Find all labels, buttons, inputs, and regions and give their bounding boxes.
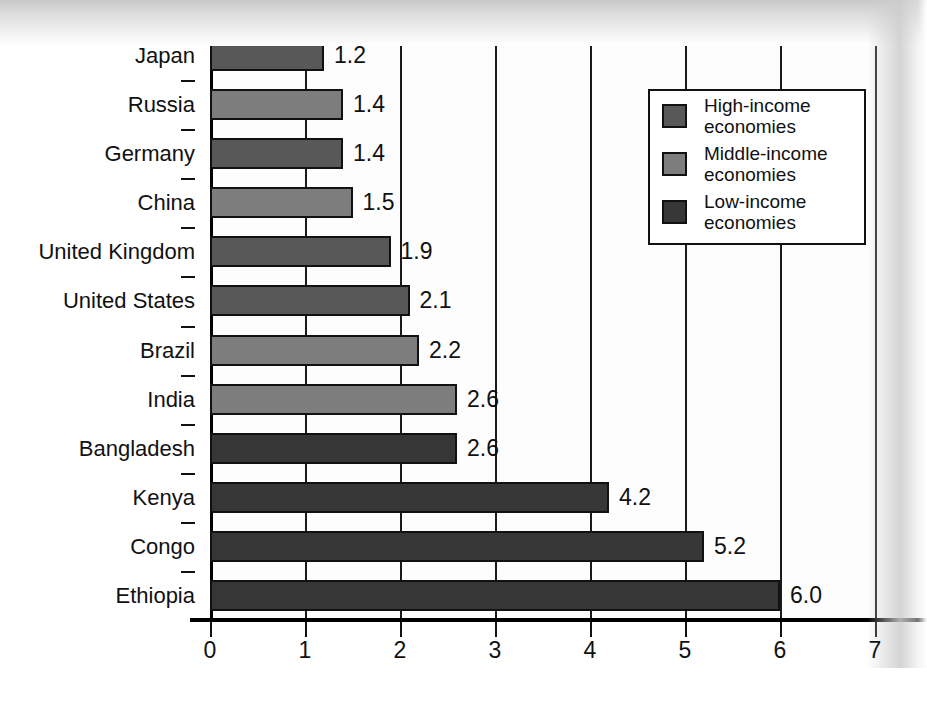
x-axis-tick-7 [875, 622, 877, 637]
y-axis-tick [181, 522, 195, 524]
x-axis-tick-6 [780, 622, 782, 637]
cropped-title-remnant: Figure Fertility Rates [0, 0, 927, 14]
y-axis-label-kenya: Kenya [0, 482, 195, 513]
bar-russia [210, 89, 343, 120]
legend-label: Middle-incomeeconomies [704, 143, 828, 185]
y-axis-label-ethiopia: Ethiopia [0, 580, 195, 611]
bar-japan [210, 40, 324, 71]
bar-row: 5.2 [210, 522, 875, 571]
bar-value-label: 1.4 [353, 138, 385, 169]
bar-value-label: 2.6 [467, 433, 499, 464]
bar-row: 2.6 [210, 424, 875, 473]
legend-swatch-icon-low [662, 200, 687, 224]
legend-label-line1: Low-income [704, 191, 806, 212]
bar-brazil [210, 335, 419, 366]
bar-value-label: 1.4 [353, 89, 385, 120]
x-axis-tick-0 [210, 622, 212, 637]
bar-ethiopia [210, 580, 780, 611]
legend-box: High-incomeeconomiesMiddle-incomeeconomi… [648, 89, 866, 245]
y-axis-label-united-kingdom: United Kingdom [0, 236, 195, 267]
y-axis-label-russia: Russia [0, 89, 195, 120]
x-axis-tick-label-4: 4 [570, 637, 610, 664]
y-axis-label-china: China [0, 187, 195, 218]
legend-label-line2: economies [704, 212, 806, 233]
y-axis-label-india: India [0, 384, 195, 415]
x-axis-line [190, 618, 927, 622]
chart-page: Figure Fertility Rates 1.21.41.41.51.92.… [0, 0, 927, 708]
legend-label-line2: economies [704, 164, 828, 185]
x-axis-tick-label-7: 7 [855, 637, 895, 664]
x-axis-tick-1 [305, 622, 307, 637]
y-axis-tick [181, 473, 195, 475]
y-axis-tick [181, 80, 195, 82]
y-axis-tick [181, 276, 195, 278]
bar-row: 2.2 [210, 326, 875, 375]
y-axis-tick [181, 571, 195, 573]
bar-bangladesh [210, 433, 457, 464]
bar-row: 4.2 [210, 473, 875, 522]
legend-item-high-income[interactable]: High-incomeeconomies [650, 99, 864, 147]
y-axis-label-brazil: Brazil [0, 335, 195, 366]
bar-value-label: 2.1 [420, 285, 452, 316]
cropped-title-text: Figure Fertility Rates [120, 0, 278, 4]
bar-china [210, 187, 353, 218]
y-axis-label-bangladesh: Bangladesh [0, 433, 195, 464]
y-axis-tick [181, 227, 195, 229]
y-axis-tick [181, 326, 195, 328]
bar-india [210, 384, 457, 415]
bar-row: 1.2 [210, 31, 875, 80]
legend-label: High-incomeeconomies [704, 95, 811, 137]
bar-value-label: 2.6 [467, 384, 499, 415]
bar-row: 2.1 [210, 276, 875, 325]
y-axis-category-labels: JapanRussiaGermanyChinaUnited KingdomUni… [0, 31, 195, 620]
bar-value-label: 1.9 [401, 236, 433, 267]
legend-label-line1: High-income [704, 95, 811, 116]
y-axis-tick [181, 178, 195, 180]
y-axis-label-japan: Japan [0, 40, 195, 71]
page-bottom-margin [0, 668, 927, 708]
y-axis-tick [181, 424, 195, 426]
x-axis-tick-3 [495, 622, 497, 637]
legend-swatch-icon-high [662, 104, 687, 128]
bar-congo [210, 531, 704, 562]
x-axis-tick-label-6: 6 [760, 637, 800, 664]
bar-value-label: 5.2 [714, 531, 746, 562]
bar-value-label: 1.2 [334, 40, 366, 71]
y-axis-label-congo: Congo [0, 531, 195, 562]
x-axis-tick-label-3: 3 [475, 637, 515, 664]
legend-label: Low-incomeeconomies [704, 191, 806, 233]
bar-row: 6.0 [210, 571, 875, 620]
y-axis-label-united-states: United States [0, 285, 195, 316]
bar-value-label: 1.5 [363, 187, 395, 218]
y-axis-tick [181, 129, 195, 131]
bar-value-label: 4.2 [619, 482, 651, 513]
legend-swatch-icon-middle [662, 152, 687, 176]
y-axis-label-germany: Germany [0, 138, 195, 169]
bar-value-label: 2.2 [429, 335, 461, 366]
legend-item-middle-income[interactable]: Middle-incomeeconomies [650, 147, 864, 195]
bar-value-label: 6.0 [790, 580, 822, 611]
x-axis-tick-label-5: 5 [665, 637, 705, 664]
x-axis-tick-label-1: 1 [285, 637, 325, 664]
x-axis-tick-2 [400, 622, 402, 637]
y-axis-tick [181, 375, 195, 377]
bar-row: 2.6 [210, 375, 875, 424]
x-axis-tick-label-0: 0 [190, 637, 230, 664]
gridline-7 [875, 31, 877, 620]
bar-germany [210, 138, 343, 169]
legend-label-line2: economies [704, 116, 811, 137]
x-axis-tick-4 [590, 622, 592, 637]
legend-item-low-income[interactable]: Low-incomeeconomies [650, 195, 864, 243]
x-axis-tick-label-2: 2 [380, 637, 420, 664]
x-axis-tick-5 [685, 622, 687, 637]
bar-united-kingdom [210, 236, 391, 267]
bar-kenya [210, 482, 609, 513]
legend-label-line1: Middle-income [704, 143, 828, 164]
bar-united-states [210, 285, 410, 316]
